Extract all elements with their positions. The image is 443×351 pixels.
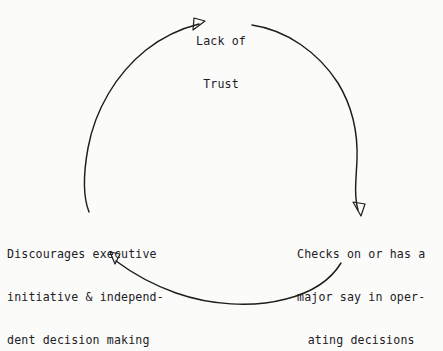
node-label-lack-of-trust: Lack of Trust [196, 6, 246, 120]
label-line: ating decisions [297, 333, 425, 347]
arc-left-to-top [84, 24, 199, 212]
label-line: Checks on or has a [297, 247, 425, 261]
node-label-discourages-initiative: Discourages executive initiative & indep… [7, 219, 164, 351]
node-label-checks-on-operating-decisions: Checks on or has a major say in oper- at… [297, 219, 425, 351]
label-line: initiative & independ- [7, 290, 164, 304]
arrowhead-to-checks-on [353, 202, 365, 216]
label-line: Lack of [196, 34, 246, 48]
arc-top-to-right [252, 25, 358, 210]
label-line: Discourages executive [7, 247, 164, 261]
label-line: Trust [196, 77, 246, 91]
label-line: dent decision making [7, 333, 164, 347]
label-line: major say in oper- [297, 290, 425, 304]
